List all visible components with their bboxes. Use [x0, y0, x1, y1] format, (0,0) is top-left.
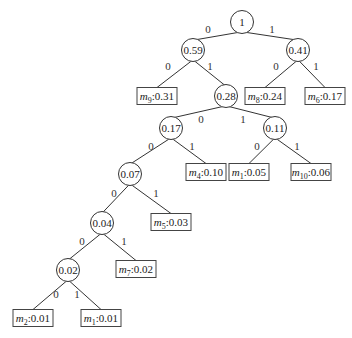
internal-node: 0.59: [182, 39, 205, 62]
edge-bit-label: 0: [111, 187, 117, 199]
internal-node: 1: [231, 11, 254, 34]
node-probability: 1: [239, 16, 245, 28]
tree-edge: [298, 60, 325, 88]
internal-node: 0.11: [264, 117, 287, 140]
tree-edge: [249, 138, 275, 164]
tree-edge: [157, 60, 193, 88]
edge-bit-label: 1: [294, 140, 300, 152]
leaf-node: m6:0.17: [305, 88, 345, 106]
node-probability: 0.11: [266, 122, 285, 134]
edge-bit-label: 0: [165, 60, 171, 72]
leaf-node: m9:0.31: [137, 88, 177, 106]
leaf-node: m7:0.02: [116, 261, 156, 279]
edge-bit-label: 0: [205, 23, 211, 35]
internal-node: 0.02: [57, 259, 80, 282]
tree-edge: [68, 233, 102, 260]
leaf-node: m1:0.01: [81, 310, 121, 328]
node-probability: 0.17: [161, 122, 181, 134]
edge-bit-label: 1: [207, 60, 213, 72]
tree-edge: [102, 233, 136, 261]
tree-edge: [193, 32, 242, 40]
edge-bit-label: 0: [53, 288, 59, 300]
internal-node: 0.07: [119, 163, 142, 186]
node-probability: 0.28: [216, 90, 236, 102]
leaf-node: m4:0.10: [186, 164, 226, 182]
edge-bit-label: 1: [153, 187, 159, 199]
edge-bit-label: 0: [148, 140, 154, 152]
leaf-node: m2:0.01: [13, 310, 53, 328]
edge-bit-label: 0: [273, 60, 279, 72]
tree-edge: [275, 138, 311, 164]
node-probability: 0.02: [58, 264, 77, 276]
edge-bit-label: 1: [240, 113, 246, 125]
leaf-node: m1:0.05: [229, 164, 269, 182]
leaf-node: m5:0.03: [151, 214, 191, 232]
tree-edge: [130, 184, 171, 214]
tree-edge: [265, 60, 298, 88]
tree-edge: [33, 280, 68, 310]
edge-bit-label: 1: [74, 288, 80, 300]
leaf-node: m8:0.24: [245, 88, 285, 106]
edge-bit-label: 1: [121, 235, 127, 247]
node-probability: 0.04: [92, 217, 112, 229]
edge-bit-label: 1: [313, 60, 319, 72]
node-probability: 0.59: [183, 44, 203, 56]
internal-node: 0.28: [215, 85, 238, 108]
tree-edge: [68, 280, 101, 310]
tree-edge: [226, 106, 275, 118]
internal-node: 0.17: [160, 117, 183, 140]
edge-bit-label: 1: [269, 23, 275, 35]
coding-tree-diagram: 010101011001010101 10.590.410.280.170.11…: [0, 0, 352, 338]
edge-bit-label: 0: [198, 113, 204, 125]
leaf-node: m10:0.06: [291, 164, 331, 182]
edge-bit-label: 1: [189, 140, 195, 152]
internal-node: 0.04: [91, 212, 114, 235]
internal-node: 0.41: [287, 39, 310, 62]
node-probability: 0.07: [120, 168, 140, 180]
node-probability: 0.41: [288, 44, 307, 56]
edge-bit-label: 0: [254, 140, 260, 152]
edge-bit-label: 0: [79, 235, 85, 247]
